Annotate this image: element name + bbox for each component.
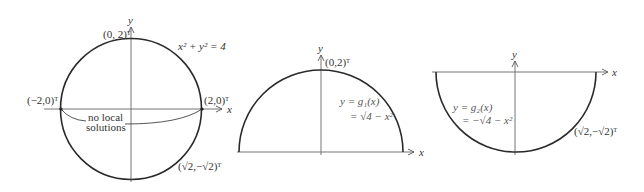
function-label-line2: = √4 − x² [350, 110, 394, 122]
point-right-label: (2,0)ᵀ [204, 94, 229, 107]
point-top-label: (0,2)ᵀ [325, 56, 350, 69]
figure-lower-semicircle: y x y = g₂(x) = −√4 − x² (√2,−√2)ᵀ [432, 48, 617, 155]
annotation-leader-right [125, 109, 202, 124]
equation-label: x² + y² = 4 [177, 40, 226, 52]
point-left [59, 107, 62, 110]
function-label-line2: = −√4 − x² [462, 114, 513, 126]
function-label-line1: y = g₂(x) [452, 101, 493, 114]
point-lower-right-label: (√2,−√2)ᵀ [178, 160, 221, 173]
figure-full-circle: y x (0, 2)ᵀ x² + y² = 4 (−2,0)ᵀ (2,0)ᵀ n… [27, 14, 232, 182]
y-axis-label: y [317, 42, 323, 54]
y-axis-label: y [127, 14, 133, 26]
diagram-canvas: y x (0, 2)ᵀ x² + y² = 4 (−2,0)ᵀ (2,0)ᵀ n… [0, 0, 644, 192]
x-axis-label: x [611, 66, 617, 78]
x-axis-label: x [418, 146, 424, 158]
y-axis-label: y [511, 48, 517, 60]
annotation-line2: solutions [86, 121, 126, 133]
figure-upper-semicircle: y x (0,2)ᵀ y = g₁(x) = √4 − x² [237, 42, 424, 158]
point-top-label: (0, 2)ᵀ [103, 28, 131, 41]
function-label-line1: y = g₁(x) [339, 95, 380, 108]
point-right [200, 107, 203, 110]
annotation-leader-left [61, 109, 86, 121]
point-label: (√2,−√2)ᵀ [574, 125, 617, 138]
point-left-label: (−2,0)ᵀ [27, 94, 58, 107]
